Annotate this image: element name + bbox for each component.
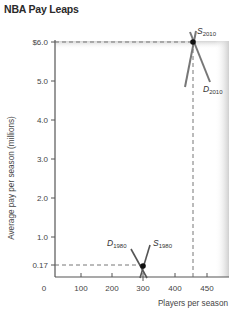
y-tick-5: 5.0 xyxy=(37,77,49,86)
chart-canvas: $6.0 5.0 4.0 3.0 2.0 1.0 0.17 0 100 200 … xyxy=(0,0,241,327)
equilibrium-2010-point xyxy=(190,39,196,45)
x-tick-0: 0 xyxy=(42,284,47,293)
x-tick-100: 100 xyxy=(74,284,88,293)
supply-2010-curve xyxy=(185,31,196,87)
x-tick-300: 300 xyxy=(136,284,150,293)
y-tick-2: 2.0 xyxy=(37,194,49,203)
x-tick-450: 450 xyxy=(200,284,214,293)
label-s1980: S1980 xyxy=(153,238,173,249)
equilibrium-1980-point xyxy=(140,263,146,269)
y-axis-label: Average pay per season (millions) xyxy=(7,116,16,240)
y-tick-6: $6.0 xyxy=(32,38,48,47)
y-tick-3: 3.0 xyxy=(37,155,49,164)
label-d1980: D1980 xyxy=(107,238,127,249)
x-axis-label: Players per season xyxy=(158,299,229,308)
label-s2010: S2010 xyxy=(197,26,217,37)
y-tick-4: 4.0 xyxy=(37,116,49,125)
x-tick-200: 200 xyxy=(105,284,119,293)
right-shade xyxy=(215,41,229,277)
y-tick-1: 1.0 xyxy=(37,233,49,242)
y-tick-017: 0.17 xyxy=(32,261,48,270)
x-tick-400: 400 xyxy=(168,284,182,293)
